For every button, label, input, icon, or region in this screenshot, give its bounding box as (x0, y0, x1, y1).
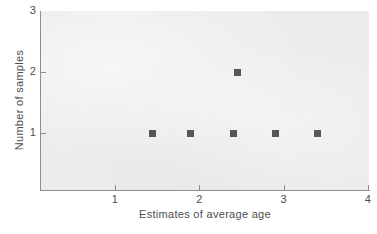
x-axis-tick (368, 185, 369, 190)
x-axis-tick-label: 3 (274, 193, 294, 205)
data-point-marker (149, 130, 156, 137)
x-axis-tick (199, 185, 200, 190)
x-axis-tick-label: 1 (105, 193, 125, 205)
data-point-marker (230, 130, 237, 137)
y-axis-tick (41, 72, 46, 73)
y-axis-tick-label: 3 (20, 4, 36, 16)
y-axis-tick (41, 133, 46, 134)
x-axis-tick (284, 185, 285, 190)
data-point-marker (234, 69, 241, 76)
scatter-chart-figure: 1234 123 Estimates of average age Number… (0, 0, 377, 234)
y-axis-title: Number of samples (13, 30, 25, 170)
x-axis-line (40, 190, 370, 191)
y-axis-line (40, 11, 41, 191)
data-point-marker (314, 130, 321, 137)
data-point-marker (272, 130, 279, 137)
data-point-marker (187, 130, 194, 137)
plot-background-texture (40, 11, 369, 190)
x-axis-title: Estimates of average age (40, 208, 370, 220)
x-axis-tick-label: 2 (189, 193, 209, 205)
x-axis-tick-label: 4 (358, 193, 377, 205)
x-axis-tick (115, 185, 116, 190)
plot-area (40, 11, 369, 190)
